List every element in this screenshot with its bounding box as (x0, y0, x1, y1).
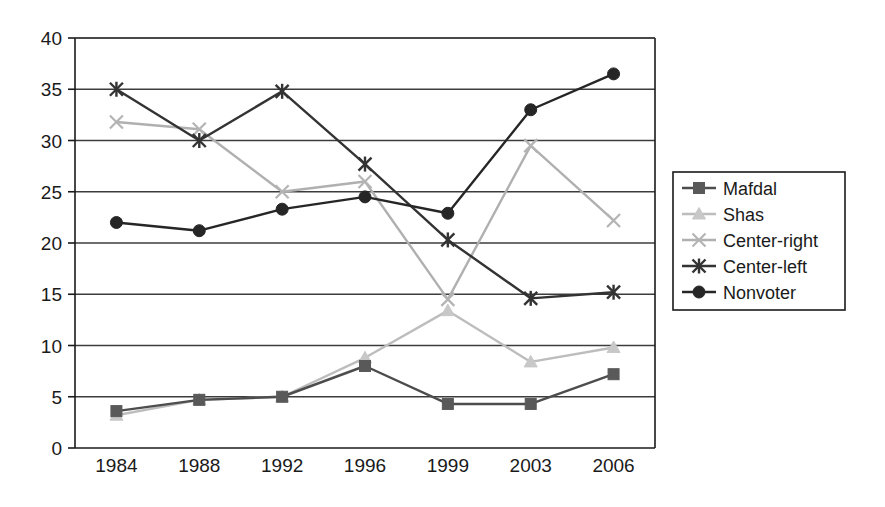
data-point-marker (360, 361, 371, 372)
legend-label: Center-left (723, 257, 807, 277)
chart-figure: 0510152025303540 19841988199219961999200… (0, 0, 885, 507)
y-tick-label: 20 (41, 233, 62, 254)
y-tick-label: 25 (41, 182, 62, 203)
data-point-marker (442, 207, 454, 219)
y-tick-label: 5 (51, 387, 62, 408)
legend-label: Shas (723, 205, 764, 225)
legend-label: Mafdal (723, 179, 777, 199)
data-point-marker (110, 217, 122, 229)
data-point-marker (608, 369, 619, 380)
data-point-marker (442, 398, 453, 409)
data-point-marker (277, 391, 288, 402)
y-tick-label: 10 (41, 336, 62, 357)
x-tick-label: 1992 (261, 455, 303, 476)
legend-label: Center-right (723, 231, 818, 251)
line-chart: 0510152025303540 19841988199219961999200… (0, 0, 885, 507)
y-tick-label: 0 (51, 438, 62, 459)
y-tick-label: 40 (41, 28, 62, 49)
legend-marker (693, 286, 705, 298)
x-tick-label: 1988 (178, 455, 220, 476)
x-tick-label: 1999 (427, 455, 469, 476)
data-point-marker (359, 191, 371, 203)
data-point-marker (193, 225, 205, 237)
legend-marker (694, 183, 705, 194)
y-tick-label: 35 (41, 79, 62, 100)
legend-label: Nonvoter (723, 283, 796, 303)
x-tick-label: 2006 (592, 455, 634, 476)
data-point-marker (525, 398, 536, 409)
data-point-marker (525, 104, 537, 116)
data-point-marker (111, 406, 122, 417)
x-tick-label: 1984 (95, 455, 138, 476)
x-tick-label: 1996 (344, 455, 386, 476)
data-point-marker (276, 203, 288, 215)
y-tick-label: 15 (41, 284, 62, 305)
y-tick-label: 30 (41, 131, 62, 152)
data-point-marker (608, 68, 620, 80)
x-tick-label: 2003 (510, 455, 552, 476)
data-point-marker (194, 394, 205, 405)
chart-legend: MafdalShasCenter-rightCenter-leftNonvote… (673, 172, 845, 310)
